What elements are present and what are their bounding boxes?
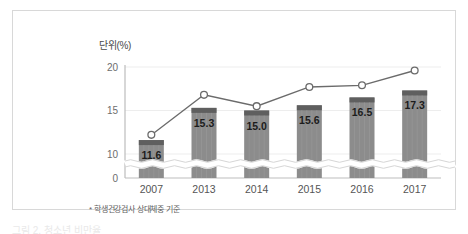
bar-value-label: 15.3	[194, 117, 215, 129]
x-tick-label: 2015	[298, 183, 322, 195]
line-marker	[253, 103, 260, 110]
line-marker	[359, 82, 366, 89]
bar-top-cap	[297, 105, 322, 110]
bar-value-label: 15.6	[299, 114, 320, 126]
x-tick-label: 2017	[403, 183, 427, 195]
bar-top-cap	[244, 111, 269, 116]
chart-figure-frame: 단위(%) 010152011.6200715.3201315.0201415.…	[12, 10, 456, 210]
bar-value-label: 16.5	[352, 106, 373, 118]
line-marker	[201, 91, 208, 98]
bar-top-cap	[192, 108, 217, 113]
chart-footnote: * 학생건강검사 상대체중 기준	[89, 203, 180, 214]
y-tick-label: 15	[107, 105, 119, 116]
line-marker	[148, 131, 155, 138]
y-tick-label: 0	[112, 173, 118, 184]
x-tick-label: 2013	[192, 183, 216, 195]
x-tick-label: 2007	[140, 183, 164, 195]
y-tick-label: 20	[107, 62, 119, 73]
figure-caption-partial: 그림 2. 청소년 비만율	[12, 222, 101, 234]
line-marker	[306, 84, 313, 91]
bar-value-label: 15.0	[246, 120, 267, 132]
bar-line-chart: 010152011.6200715.3201315.0201415.620151…	[13, 11, 457, 211]
bar-top-cap	[350, 97, 375, 102]
bar-top-cap	[139, 140, 164, 145]
axis-break-mask	[125, 163, 455, 166]
bar-value-label: 17.3	[404, 99, 425, 111]
x-tick-label: 2016	[350, 183, 374, 195]
bar-top-cap	[402, 90, 427, 95]
y-tick-label: 10	[107, 149, 119, 160]
x-tick-label: 2014	[245, 183, 269, 195]
trend-line	[151, 71, 414, 135]
line-marker	[411, 67, 418, 74]
